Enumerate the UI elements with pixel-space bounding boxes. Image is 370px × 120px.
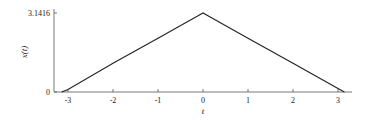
x-tick-label: 0 [201,96,205,105]
data-line [62,13,345,92]
x-tick-label: -3 [65,96,72,105]
x-tick-label: 1 [246,96,250,105]
y-axis-label: x(t) [19,46,29,60]
line-chart: -3-2-1012303.1416 t x(t) [0,0,370,120]
x-tick-label: 2 [291,96,295,105]
x-tick-label: 3 [336,96,340,105]
y-tick-label: 3.1416 [28,9,50,18]
y-tick-label: 0 [46,88,50,97]
axes [54,9,352,92]
x-tick-label: -2 [110,96,117,105]
x-axis-label: t [202,106,205,116]
x-tick-label: -1 [155,96,162,105]
